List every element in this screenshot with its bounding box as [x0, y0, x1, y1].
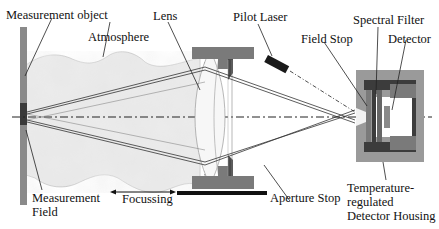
lens-mount-top: [192, 47, 254, 59]
label-field-stop: Field Stop: [301, 32, 353, 46]
detector-housing: [356, 70, 424, 162]
label-measurement-field-1: Measurement: [32, 191, 101, 205]
label-housing-3: Detector Housing: [347, 209, 436, 223]
label-detector: Detector: [388, 32, 432, 46]
label-housing-1: Temperature-: [347, 181, 414, 195]
pyrometer-diagram: Measurement object Atmosphere Lens Pilot…: [0, 0, 439, 229]
atmosphere-region: [26, 52, 200, 193]
label-lens: Lens: [153, 9, 177, 23]
measurement-field-highlight: [20, 103, 27, 125]
label-measurement-object: Measurement object: [6, 8, 108, 22]
label-pilot-laser: Pilot Laser: [233, 10, 288, 24]
label-measurement-field-2: Field: [32, 205, 58, 219]
label-spectral-filter: Spectral Filter: [353, 13, 425, 27]
lens-mount-bottom: [192, 176, 254, 189]
label-aperture-stop: Aperture Stop: [270, 191, 340, 205]
label-housing-2: regulated: [347, 195, 394, 209]
focus-rail: [177, 191, 267, 195]
label-atmosphere: Atmosphere: [88, 30, 150, 44]
pilot-laser: [264, 55, 355, 112]
label-focussing: Focussing: [122, 192, 173, 206]
